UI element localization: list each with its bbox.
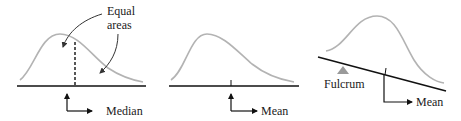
equal-areas-label-line1: Equal	[107, 4, 136, 18]
distribution-curve	[171, 34, 294, 82]
skewed-distribution-diagram: Equal areas Median Mean Fulcrum Mean	[0, 0, 461, 121]
arrow-to-left-area	[63, 14, 102, 47]
arrow-to-right-area	[100, 34, 118, 73]
equal-areas-label-line2: areas	[107, 18, 132, 32]
fulcrum-label: Fulcrum	[324, 77, 365, 91]
mean-label: Mean	[416, 95, 443, 109]
panel-median: Equal areas Median	[17, 4, 146, 118]
mean-tick	[385, 68, 386, 75]
panel-mean: Mean	[169, 34, 299, 118]
median-label: Median	[106, 104, 143, 118]
fulcrum-triangle	[337, 66, 349, 74]
panel-balance: Fulcrum Mean	[318, 16, 446, 109]
distribution-curve	[20, 34, 143, 82]
mean-label: Mean	[261, 104, 288, 118]
